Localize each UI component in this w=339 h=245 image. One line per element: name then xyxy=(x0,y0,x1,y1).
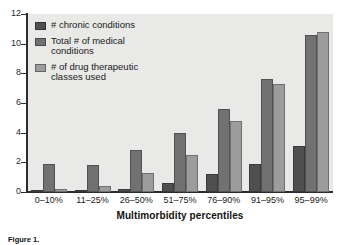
legend-swatch-icon xyxy=(35,22,46,30)
bar xyxy=(75,190,87,192)
bar xyxy=(162,183,174,192)
bar xyxy=(43,164,55,192)
x-axis-tick-label: 95–99% xyxy=(289,195,333,206)
legend-swatch-icon xyxy=(35,38,46,46)
y-axis-tick-label: 4 xyxy=(2,128,21,137)
y-axis-labels: 024681012 xyxy=(0,0,21,245)
x-axis-tick-label: 51–75% xyxy=(158,195,202,206)
x-axis-tick-label: 26–50% xyxy=(114,195,158,206)
legend-item-label: Total # of medical conditions xyxy=(51,36,143,57)
legend-item: # chronic conditions xyxy=(35,20,155,31)
bar xyxy=(206,174,218,192)
y-axis-tick-label: 2 xyxy=(2,157,21,166)
bar-group xyxy=(162,14,198,192)
y-axis-tick xyxy=(21,44,27,45)
bar xyxy=(31,190,43,192)
bar xyxy=(249,164,261,192)
bar xyxy=(130,150,142,192)
bar xyxy=(230,121,242,192)
bar xyxy=(99,186,111,192)
y-axis-tick xyxy=(21,192,27,193)
bar xyxy=(273,84,285,192)
bar-group xyxy=(206,14,242,192)
bar xyxy=(293,146,305,192)
y-axis-tick-label: 6 xyxy=(2,98,21,107)
y-axis-tick-label: 10 xyxy=(2,39,21,48)
y-axis-tick xyxy=(21,14,27,15)
y-axis-tick xyxy=(21,133,27,134)
figure-caption: Figure 1. xyxy=(8,236,333,245)
bar xyxy=(317,32,329,192)
y-axis-tick-label: 0 xyxy=(2,187,21,196)
chart-legend: # chronic conditionsTotal # of medical c… xyxy=(35,20,155,88)
legend-item-label: # of drug therapeutic classes used xyxy=(51,62,143,83)
bar xyxy=(218,109,230,192)
y-axis-tick xyxy=(21,162,27,163)
bar xyxy=(305,35,317,192)
legend-item: # of drug therapeutic classes used xyxy=(35,62,155,83)
bar xyxy=(261,79,273,192)
x-axis-tick-label: 11–25% xyxy=(71,195,115,206)
figure-container: 024681012 # chronic conditionsTotal # of… xyxy=(0,0,339,245)
bar-group xyxy=(249,14,285,192)
legend-swatch-icon xyxy=(35,64,46,72)
x-axis-title: Multimorbidity percentiles xyxy=(27,210,333,221)
x-axis-tick-label: 76–90% xyxy=(202,195,246,206)
legend-item-label: # chronic conditions xyxy=(51,20,135,31)
figure-caption-label: Figure 1. xyxy=(8,236,39,244)
legend-item: Total # of medical conditions xyxy=(35,36,155,57)
x-axis-tick-label: 0–10% xyxy=(27,195,71,206)
bar-group xyxy=(293,14,329,192)
bar xyxy=(55,189,67,192)
x-axis-tick-label: 91–95% xyxy=(246,195,290,206)
y-axis-tick-label: 12 xyxy=(2,9,21,18)
x-axis-labels: 0–10%11–25%26–50%51–75%76–90%91–95%95–99… xyxy=(27,195,333,209)
bar xyxy=(186,155,198,192)
y-axis-tick xyxy=(21,73,27,74)
y-axis-tick xyxy=(21,103,27,104)
bar xyxy=(118,189,130,192)
bar xyxy=(87,165,99,192)
bar xyxy=(142,173,154,192)
y-axis-tick-label: 8 xyxy=(2,68,21,77)
bar xyxy=(174,133,186,192)
